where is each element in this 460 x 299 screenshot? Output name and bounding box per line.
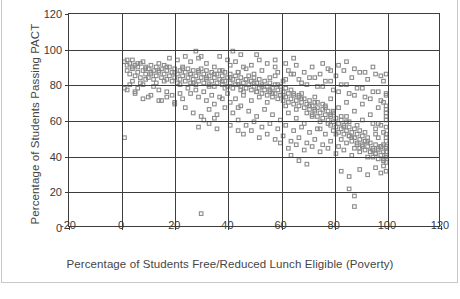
scatter-point [125, 58, 129, 62]
scatter-point [189, 92, 193, 96]
scatter-point [178, 92, 182, 96]
scatter-point [202, 90, 206, 94]
scatter-point [139, 76, 143, 80]
scatter-point [250, 99, 254, 103]
scatter-point [244, 78, 248, 82]
scatter-point [213, 116, 217, 120]
scatter-point [300, 81, 304, 85]
scatter-point [144, 78, 148, 82]
scatter-point [342, 69, 346, 73]
scatter-point [371, 90, 375, 94]
scatter-point [207, 108, 211, 112]
scatter-point [379, 74, 383, 78]
x-gridline [335, 14, 336, 226]
scatter-point [313, 76, 317, 80]
scatter-point [265, 101, 269, 105]
scatter-point [186, 67, 190, 71]
x-tick-label: -20 [60, 219, 76, 231]
scatter-point [294, 116, 298, 120]
scatter-point [368, 113, 372, 117]
scatter-point [141, 97, 145, 101]
scatter-point [247, 109, 251, 113]
scatter-point [361, 102, 365, 106]
x-gridline [122, 14, 123, 226]
scatter-point [257, 95, 261, 99]
scatter-point [263, 79, 267, 83]
scatter-point [168, 56, 172, 60]
scatter-point [141, 60, 145, 64]
scatter-point [347, 92, 351, 96]
scatter-point [257, 136, 261, 140]
x-tick-label: 60 [274, 219, 286, 231]
scatter-point [157, 99, 161, 103]
scatter-point [313, 95, 317, 99]
scatter-point [197, 125, 201, 129]
scatter-point [250, 63, 254, 67]
scatter-point [205, 62, 209, 66]
scatter-point [363, 95, 367, 99]
scatter-point [136, 71, 140, 75]
scatter-point [329, 79, 333, 83]
scatter-point [353, 93, 357, 97]
y-tick-label: 40 [50, 151, 69, 163]
scatter-point [205, 99, 209, 103]
scatter-point [289, 139, 293, 143]
scatter-point [308, 104, 312, 108]
scatter-point [149, 63, 153, 67]
chart-figure: Percentage of Students Passing PACT 0204… [0, 0, 460, 299]
scatter-point [276, 71, 280, 75]
scatter-point [273, 65, 277, 69]
scatter-point [149, 93, 153, 97]
scatter-point [337, 90, 341, 94]
x-gridline [388, 14, 389, 226]
scatter-point [242, 65, 246, 69]
scatter-point [358, 71, 362, 75]
scatter-point [310, 65, 314, 69]
scatter-point [374, 166, 378, 170]
scatter-point [305, 141, 309, 145]
scatter-point [191, 111, 195, 115]
scatter-point [318, 72, 322, 76]
scatter-point [210, 93, 214, 97]
scatter-point [207, 122, 211, 126]
scatter-point [305, 162, 309, 166]
scatter-point [268, 76, 272, 80]
scatter-point [189, 72, 193, 76]
scatter-point [244, 124, 248, 128]
scatter-point [347, 187, 351, 191]
scatter-point [353, 109, 357, 113]
x-tick-label: 80 [328, 219, 340, 231]
scatter-point [255, 90, 259, 94]
scatter-point [263, 108, 267, 112]
scatter-point [363, 139, 367, 143]
scatter-point [239, 53, 243, 57]
scatter-point [220, 97, 224, 101]
scatter-point [250, 129, 254, 133]
scatter-point [271, 113, 275, 117]
scatter-point [183, 55, 187, 59]
scatter-point [376, 106, 380, 110]
scatter-point [345, 115, 349, 119]
scatter-point [347, 125, 351, 129]
scatter-point [183, 106, 187, 110]
scatter-point [361, 86, 365, 90]
scatter-point [316, 127, 320, 131]
scatter-point [213, 65, 217, 69]
scatter-point [199, 55, 203, 59]
scatter-point [242, 93, 246, 97]
scatter-point [287, 69, 291, 73]
y-gridline [69, 50, 439, 51]
scatter-point [276, 127, 280, 131]
scatter-point [358, 150, 362, 154]
scatter-point [329, 139, 333, 143]
y-axis-title: Percentage of Students Passing PACT [29, 9, 41, 239]
scatter-point [310, 145, 314, 149]
scatter-point [268, 81, 272, 85]
scatter-point [308, 99, 312, 103]
scatter-point [358, 168, 362, 172]
scatter-point [223, 106, 227, 110]
scatter-point [273, 138, 277, 142]
scatter-point [379, 171, 383, 175]
scatter-point [265, 132, 269, 136]
y-tick-label: 80 [50, 79, 69, 91]
